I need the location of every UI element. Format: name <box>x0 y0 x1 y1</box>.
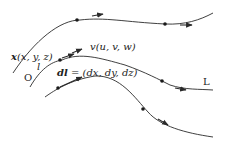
curve-l-label: l <box>37 62 40 72</box>
velocity-components: (u, v, w) <box>96 41 136 52</box>
streamline-L-label: L <box>203 77 210 87</box>
line-element-label: dl = (dx, dy, dz) <box>57 68 137 78</box>
fluid-particle-point <box>163 22 167 26</box>
velocity-label: v(u, v, w) <box>90 42 136 52</box>
fluid-particle-point <box>58 58 62 62</box>
streamline-diagram: x(x, y, z) v(u, v, w) dl = (dx, dy, dz) … <box>0 0 226 144</box>
position-label: x(x, y, z) <box>11 52 53 62</box>
fluid-particle-point <box>141 107 145 111</box>
direction-arrow-icon <box>158 119 168 125</box>
bottom-streamline <box>45 76 213 137</box>
fluid-particle-point <box>160 79 164 83</box>
position-coordinates: (x, y, z) <box>17 51 53 62</box>
origin-label: O <box>24 73 32 83</box>
line-element-vector: dl <box>57 67 68 78</box>
line-element-components: = (dx, dy, dz) <box>68 67 138 78</box>
fluid-particle-point <box>56 86 60 90</box>
direction-arrow-icon <box>72 49 82 53</box>
direction-arrow-icon <box>92 14 103 16</box>
fluid-particle-point <box>75 18 79 22</box>
direction-arrow-icon <box>60 77 82 87</box>
